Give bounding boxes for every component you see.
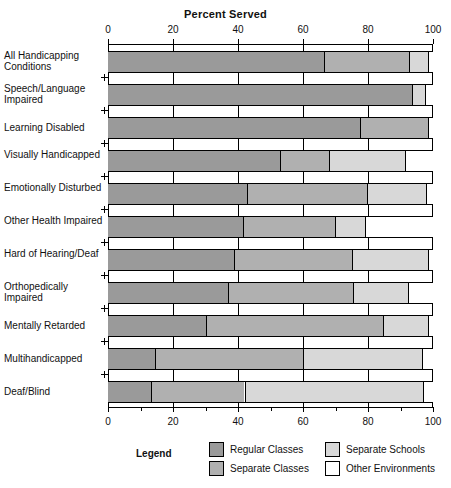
- category-label-text: Emotionally Disturbed: [4, 182, 104, 194]
- bar-segment: [245, 382, 424, 402]
- stacked-bar: [108, 315, 433, 337]
- legend-swatch: [209, 442, 224, 457]
- category-label: Hard of Hearing/Deaf: [4, 248, 104, 260]
- bar-segment: [329, 151, 405, 171]
- bar-segment: [324, 52, 409, 72]
- legend-swatch: [325, 442, 340, 457]
- stacked-bar: [108, 84, 433, 106]
- axis-minor-tick: [206, 407, 207, 411]
- bar-row: [108, 249, 433, 271]
- stacked-bar: [108, 381, 433, 403]
- bar-row: [108, 216, 433, 238]
- legend-title: Legend: [136, 448, 172, 459]
- legend-swatch: [325, 461, 340, 476]
- bar-segment: [352, 250, 428, 270]
- bar-segment: [228, 283, 353, 303]
- row-separator-tick: [104, 173, 105, 180]
- axis-minor-tick: [271, 407, 272, 411]
- row-separator-tick: [104, 338, 105, 345]
- bar-segment: [423, 382, 433, 402]
- bar-segment: [428, 52, 433, 72]
- bar-row: [108, 150, 433, 172]
- category-label: Emotionally Disturbed: [4, 182, 104, 194]
- stacked-bar: [108, 216, 433, 238]
- category-label-text: Mentally Retarded: [4, 320, 104, 332]
- bar-segment: [108, 52, 324, 72]
- row-separator-tick: [104, 74, 105, 81]
- category-label: Deaf/Blind: [4, 386, 104, 398]
- category-label: Orthopedically Impaired: [4, 281, 104, 304]
- stacked-bar: [108, 249, 433, 271]
- axis-tick-label: 60: [288, 24, 318, 35]
- bar-segment: [335, 217, 365, 237]
- bar-segment: [409, 52, 428, 72]
- category-label-text: Multihandicapped: [4, 353, 104, 365]
- category-label-text: Deaf/Blind: [4, 386, 104, 398]
- axis-tick: [368, 39, 369, 44]
- axis-tick: [238, 39, 239, 44]
- bar-segment: [412, 85, 425, 105]
- axis-tick-label: 20: [158, 24, 188, 35]
- axis-tick: [433, 407, 434, 412]
- axis-tick-label: 60: [288, 416, 318, 427]
- stacked-bar: [108, 51, 433, 73]
- bar-segment: [108, 118, 360, 138]
- stacked-bar: [108, 150, 433, 172]
- bar-segment: [151, 382, 245, 402]
- bar-segment: [367, 184, 426, 204]
- axis-tick: [173, 39, 174, 44]
- category-label: Learning Disabled: [4, 122, 104, 134]
- axis-tick-label: 40: [223, 24, 253, 35]
- bar-segment: [353, 283, 408, 303]
- stacked-bar: [108, 348, 433, 370]
- axis-tick-label: 80: [353, 24, 383, 35]
- axis-tick: [108, 407, 109, 412]
- category-label-text: Learning Disabled: [4, 122, 104, 134]
- bar-segment: [365, 217, 433, 237]
- bar-segment: [108, 151, 280, 171]
- legend-label: Other Environments: [346, 463, 435, 474]
- row-separator-tick: [104, 140, 105, 147]
- bar-segment: [428, 118, 433, 138]
- category-label: Speech/Language Impaired: [4, 83, 104, 106]
- category-label: All Handicapping Conditions: [4, 50, 104, 73]
- bar-segment: [108, 85, 412, 105]
- bar-segment: [405, 151, 433, 171]
- category-label-text: All Handicapping Conditions: [4, 50, 104, 73]
- bar-segment: [422, 349, 433, 369]
- axis-tick-label: 80: [353, 416, 383, 427]
- axis-tick: [108, 39, 109, 44]
- category-label-text: Visually Handicapped: [4, 149, 104, 161]
- category-label: Visually Handicapped: [4, 149, 104, 161]
- axis-tick: [368, 407, 369, 412]
- bar-segment: [303, 349, 422, 369]
- bar-segment: [247, 184, 367, 204]
- axis-minor-tick: [336, 407, 337, 411]
- row-separator-tick: [104, 305, 105, 312]
- bar-segment: [428, 250, 433, 270]
- bar-segment: [108, 250, 234, 270]
- axis-tick-label: 20: [158, 416, 188, 427]
- bar-row: [108, 282, 433, 304]
- category-label: Other Health Impaired: [4, 215, 104, 227]
- bar-segment: [206, 316, 383, 336]
- bar-segment: [108, 217, 243, 237]
- bar-segment: [108, 283, 228, 303]
- axis-top: [108, 44, 433, 45]
- bar-row: [108, 84, 433, 106]
- bar-segment: [108, 349, 155, 369]
- category-label-text: Other Health Impaired: [4, 215, 104, 227]
- axis-tick-label: 0: [93, 24, 123, 35]
- axis-tick: [173, 407, 174, 412]
- bar-segment: [280, 151, 329, 171]
- bar-segment: [426, 184, 433, 204]
- axis-tick-label: 40: [223, 416, 253, 427]
- bar-segment: [360, 118, 428, 138]
- category-label-text: Speech/Language Impaired: [4, 83, 104, 106]
- bar-segment: [243, 217, 335, 237]
- stacked-bar: [108, 183, 433, 205]
- axis-minor-tick: [401, 407, 402, 411]
- axis-minor-tick: [141, 407, 142, 411]
- chart-root: Percent Served All Handicapping Conditio…: [0, 0, 451, 488]
- plot-area: 002020404060608080100100: [108, 44, 433, 407]
